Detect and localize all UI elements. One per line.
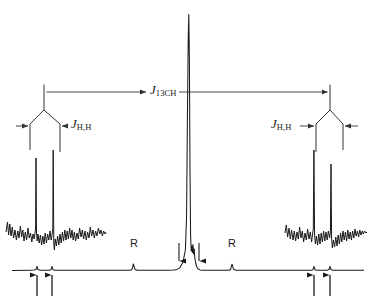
j-13ch-subscript-nuclei: CH bbox=[164, 88, 176, 98]
j-hh-right-subscript: H,H bbox=[277, 122, 292, 132]
right-caliper-bracket bbox=[316, 100, 343, 152]
nmr-spectrum-figure: J13CH JH,H JH,H R R bbox=[0, 0, 376, 302]
spectrum-canvas bbox=[0, 0, 376, 302]
right-satellite-expansion-trace bbox=[285, 150, 367, 248]
j-hh-left-label: JH,H bbox=[71, 117, 91, 132]
j-hh-right-label: JH,H bbox=[271, 117, 291, 132]
r-peak-right-label: R bbox=[228, 238, 236, 249]
center-peak-pointer-arrows bbox=[179, 243, 199, 261]
j-hh-left-subscript: H,H bbox=[77, 122, 92, 132]
j-13ch-label: J13CH bbox=[148, 83, 179, 98]
satellite-pointer-arrows bbox=[37, 275, 330, 296]
left-satellite-expansion-trace bbox=[6, 150, 106, 250]
r-peak-left-label: R bbox=[130, 238, 138, 249]
left-caliper-bracket bbox=[30, 100, 60, 152]
j-cc-measure-annotation bbox=[44, 85, 330, 101]
